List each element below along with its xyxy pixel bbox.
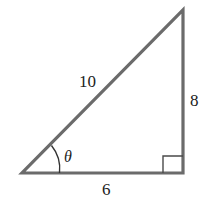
triangle-diagram: 10 8 6 θ: [0, 0, 206, 202]
triangle-figure: [0, 0, 206, 202]
hypotenuse-label: 10: [79, 73, 96, 90]
angle-arc: [52, 146, 60, 174]
right-angle-marker: [163, 156, 183, 173]
base-label: 6: [102, 181, 111, 198]
angle-theta-label: θ: [64, 149, 72, 165]
vertical-side-label: 8: [190, 92, 199, 109]
triangle-shape: [22, 10, 183, 173]
